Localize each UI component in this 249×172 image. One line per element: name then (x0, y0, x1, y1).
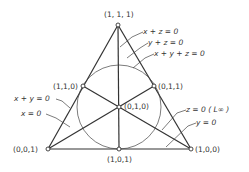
label-point-bottom-left: (0,0,1) (13, 145, 38, 154)
label-point-center: (0,1,0) (124, 102, 149, 111)
vertical-median-line (118, 25, 119, 149)
label-line-x-plus-y: x + y = 0 (13, 94, 50, 103)
label-point-bottom-mid: (1,0,1) (107, 155, 132, 164)
leader-x-plus-y (56, 99, 70, 108)
label-point-left-mid: (1,1,0) (53, 82, 78, 91)
fano-plane-diagram: (1, 1, 1) (1,1,0) (0,1,1) (0,1,0) (0,0,1… (0, 0, 249, 172)
label-point-bottom-right: (1,0,0) (195, 145, 220, 154)
point-marker-center (117, 105, 121, 109)
label-line-x-plus-y-plus-z: x + y + z = 0 (153, 49, 205, 58)
label-point-top: (1, 1, 1) (104, 10, 134, 19)
label-point-right-mid: (0,1,1) (158, 82, 183, 91)
label-line-y-plus-z: y + z = 0 (147, 38, 183, 47)
point-marker-right-mid (152, 84, 156, 88)
point-marker-bottom-mid (117, 147, 121, 151)
label-line-x-zero: x = 0 (20, 109, 41, 118)
label-line-z-zero: z = 0 ( L∞ ) (185, 105, 229, 114)
label-line-x-plus-z: x + z = 0 (142, 27, 178, 36)
label-line-y-zero: y = 0 (195, 118, 216, 127)
point-marker-left-mid (81, 84, 85, 88)
point-marker-bottom-right (189, 147, 193, 151)
point-marker-bottom-left (46, 147, 50, 151)
point-marker-top (116, 23, 120, 27)
